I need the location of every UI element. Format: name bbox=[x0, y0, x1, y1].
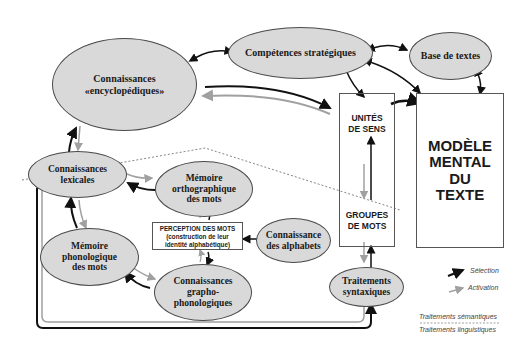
strategic-label: Compétences stratégiques bbox=[245, 47, 356, 59]
perception-sub2: identité alphabétique) bbox=[153, 241, 242, 249]
mental-model-line4: TEXTE bbox=[428, 187, 492, 204]
node-lexical-knowledge: Connaissances lexicales bbox=[28, 151, 127, 198]
mental-model-line1: MODÈLE bbox=[428, 138, 492, 155]
legend-semantic-label: Traitements sémantiques bbox=[419, 313, 497, 320]
node-alphabet-knowledge: Connaissance des alphabets bbox=[256, 218, 331, 263]
legend-activation-arrow bbox=[449, 288, 463, 292]
node-syntactic-processing: Traitements syntaxiques bbox=[329, 267, 404, 307]
word-perception-box: PERCEPTION DES MOTS (construction de leu… bbox=[152, 222, 243, 250]
grapho-line1: Connaissances bbox=[173, 276, 232, 287]
mental-model-line2: MENTAL bbox=[428, 154, 492, 171]
node-phonological-memory: Mémoire phonologique des mots bbox=[40, 228, 139, 286]
meaning-units-line2: DE SENS bbox=[339, 124, 395, 135]
perception-sub1: (construction de leur bbox=[153, 233, 242, 241]
lexical-line2: lexicales bbox=[48, 175, 107, 186]
ortho-line1: Mémoire bbox=[172, 173, 236, 184]
text-base-label: Base de textes bbox=[421, 50, 480, 62]
mental-model-box: MODÈLE MENTAL DU TEXTE bbox=[416, 93, 504, 248]
node-strategic-skills: Compétences stratégiques bbox=[228, 27, 373, 79]
node-encyclopedic-knowledge: Connaissances «encyclopédiques» bbox=[52, 38, 197, 131]
perception-title: PERCEPTION DES MOTS bbox=[153, 225, 242, 233]
node-text-base: Base de textes bbox=[409, 32, 492, 80]
legend-linguistic-label: Traitements linguistiques bbox=[419, 326, 496, 333]
legend-selection-label: Sélection bbox=[470, 267, 499, 274]
mental-model-line3: DU bbox=[428, 171, 492, 188]
phono-line3: des mots bbox=[62, 262, 117, 273]
grapho-line3: phonologiques bbox=[173, 298, 232, 309]
ortho-line3: des mots bbox=[172, 194, 236, 205]
ortho-line2: orthographique bbox=[172, 184, 236, 195]
syntax-line1: Traitements bbox=[342, 276, 391, 287]
phono-line2: phonologique bbox=[62, 252, 117, 263]
grapho-line2: grapho- bbox=[173, 287, 232, 298]
encyclopedic-line2: «encyclopédiques» bbox=[85, 85, 164, 97]
alphabets-line1: Connaissance bbox=[266, 230, 321, 241]
meaning-units-line1: UNITÉS bbox=[339, 113, 395, 124]
word-groups-line1: GROUPES bbox=[339, 210, 395, 221]
encyclopedic-line1: Connaissances bbox=[85, 73, 164, 85]
phono-line1: Mémoire bbox=[62, 241, 117, 252]
word-groups-label: GROUPES DE MOTS bbox=[339, 210, 395, 231]
node-grapho-phonological-knowledge: Connaissances grapho- phonologiques bbox=[154, 264, 252, 321]
diagram-canvas: Connaissances «encyclopédiques» Compéten… bbox=[0, 0, 529, 352]
alphabets-line2: des alphabets bbox=[266, 241, 321, 252]
syntax-line2: syntaxiques bbox=[342, 287, 391, 298]
legend-activation-label: Activation bbox=[468, 284, 498, 291]
legend-selection-arrow bbox=[448, 270, 463, 276]
lexical-line1: Connaissances bbox=[48, 164, 107, 175]
word-groups-line2: DE MOTS bbox=[339, 221, 395, 232]
meaning-units-label: UNITÉS DE SENS bbox=[339, 113, 395, 134]
node-orthographic-memory: Mémoire orthographique des mots bbox=[155, 161, 253, 217]
